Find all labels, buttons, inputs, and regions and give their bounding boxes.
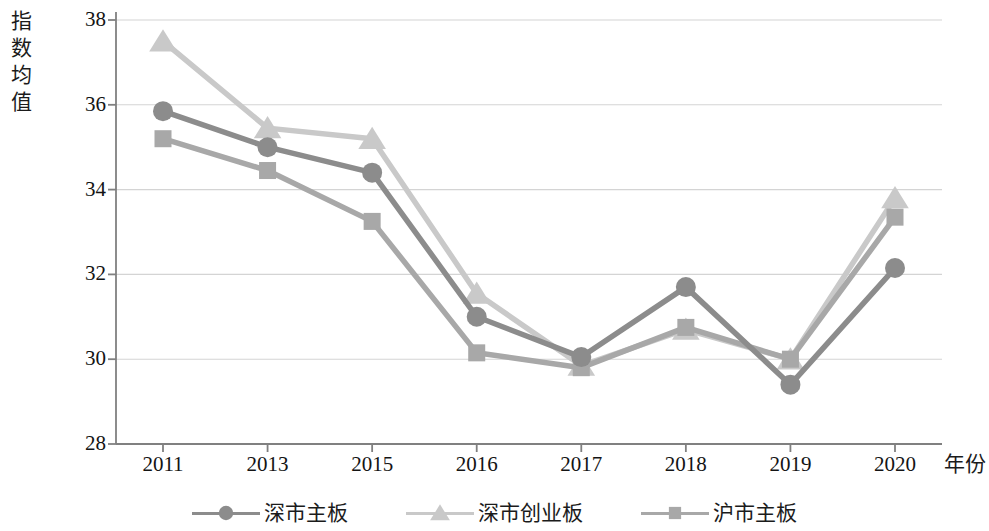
data-point-square (677, 319, 694, 336)
y-axis-tick-labels: 283032343638 (46, 0, 106, 531)
x-axis-title: 年份 (944, 452, 986, 476)
x-tick-label: 2019 (745, 452, 835, 476)
x-tick-label: 2013 (223, 452, 313, 476)
data-point-circle (467, 307, 487, 327)
legend-label: 深市主板 (264, 501, 348, 525)
data-point-square (887, 209, 904, 226)
legend-marker-triangle (425, 501, 455, 525)
legend-item-2[interactable]: 深市创业板 (406, 501, 583, 525)
y-tick-label: 36 (60, 94, 106, 115)
x-tick-label: 2017 (536, 452, 626, 476)
data-point-square (782, 351, 799, 368)
x-tick-label: 2015 (327, 452, 417, 476)
legend-item-3[interactable]: 沪市主板 (641, 501, 797, 525)
data-point-circle (258, 137, 278, 157)
x-tick-label: 2016 (432, 452, 522, 476)
plot-area (116, 20, 942, 444)
data-point-circle (219, 506, 233, 520)
series-2 (149, 29, 909, 376)
data-point-square (669, 507, 681, 519)
data-point-circle (885, 258, 905, 278)
data-point-circle (362, 163, 382, 183)
legend-swatch (406, 503, 474, 523)
y-tick-label: 32 (60, 263, 106, 284)
y-tick-label: 34 (60, 179, 106, 200)
data-point-circle (153, 101, 173, 121)
data-point-circle (676, 277, 696, 297)
x-axis-tick-labels: 20112013201520162017201820192020 (116, 452, 942, 482)
legend-label: 沪市主板 (713, 501, 797, 525)
data-point-square (364, 213, 381, 230)
data-point-triangle (149, 29, 177, 51)
chart-screenshot: 指数均值 283032343638 2011201320152016201720… (0, 0, 989, 531)
x-tick-label: 2018 (641, 452, 731, 476)
legend-swatch (192, 503, 260, 523)
legend-swatch (641, 503, 709, 523)
x-tick-label: 2020 (850, 452, 940, 476)
legend-item-1[interactable]: 深市主板 (192, 501, 348, 525)
data-point-square (155, 130, 172, 147)
data-point-circle (780, 375, 800, 395)
y-tick-label: 28 (60, 433, 106, 454)
data-point-triangle (430, 504, 450, 520)
series-line (163, 41, 895, 365)
data-point-square (468, 344, 485, 361)
y-tick-label: 30 (60, 348, 106, 369)
y-axis-title: 指数均值 (4, 8, 38, 116)
legend-marker-square (660, 501, 690, 525)
legend-marker-circle (211, 501, 241, 525)
x-tick-label: 2011 (118, 452, 208, 476)
y-tick-label: 38 (60, 9, 106, 30)
legend-label: 深市创业板 (478, 501, 583, 525)
data-point-square (259, 162, 276, 179)
chart-canvas (116, 20, 942, 444)
data-point-circle (571, 347, 591, 367)
chart-legend: 深市主板深市创业板沪市主板 (0, 496, 989, 530)
